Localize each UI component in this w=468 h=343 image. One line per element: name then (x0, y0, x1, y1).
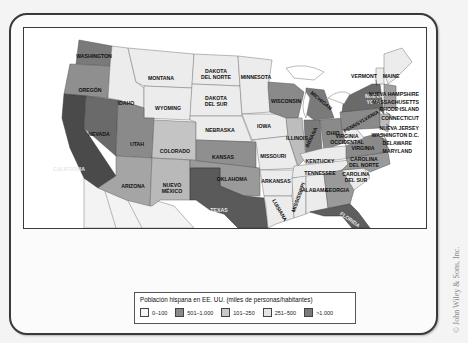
label-tennessee: TENNESSEE (304, 170, 336, 176)
legend-items: 0–100 501–1.000 101–250 251–500 >1.000 (140, 308, 333, 317)
legend-swatch (304, 308, 313, 317)
label-arkansas: ARKANSAS (261, 178, 291, 184)
label-nueva-jersey: NUEVA JERSEY (380, 125, 420, 131)
label-minnesota: MINNESOTA (241, 74, 272, 80)
label-carolina-norte-2: DEL NORTE (349, 162, 379, 168)
legend-item-1000-plus: >1.000 (304, 308, 333, 317)
legend-label: 501–1.000 (187, 310, 213, 316)
legend-item-251-500: 251–500 (263, 308, 296, 317)
legend-item-501-1000: 501–1.000 (175, 308, 213, 317)
label-virginia: VIRGINIA (351, 145, 374, 151)
label-missouri: MISSOURI (260, 153, 286, 159)
label-virginia-occ-2: OCCIDENTAL (330, 139, 364, 145)
label-montana: MONTANA (148, 75, 174, 81)
label-washington-dc: WASHINGTON D.C. (372, 132, 420, 138)
label-georgia: GEORGIA (325, 187, 350, 193)
legend-swatch (140, 308, 149, 317)
legend-swatch (263, 308, 272, 317)
label-connecticut: CONNECTICUT (381, 115, 420, 121)
legend-swatch (221, 308, 230, 317)
legend-label: >1.000 (316, 310, 333, 316)
label-iowa: IOWA (257, 123, 271, 129)
label-dakota-norte-2: DEL NORTE (201, 74, 231, 80)
label-maine: MAINE (383, 73, 400, 79)
legend-label: 0–100 (152, 310, 167, 316)
label-kentucky: KENTUCKY (306, 158, 335, 164)
label-carolina-sur-2: DEL SUR (345, 177, 368, 183)
map-panel: WASHINGTON OREGÓN CALIFORNIA NEVADA IDAH… (23, 27, 427, 229)
label-texas: TEXAS (210, 207, 228, 213)
label-utah: UTAH (130, 141, 144, 147)
label-wyoming: WYOMING (155, 105, 181, 111)
copyright-notice: © John Wiley & Sons, Inc. (452, 247, 461, 333)
label-arizona: ARIZONA (121, 183, 145, 189)
label-oklahoma: OKLAHOMA (217, 176, 248, 182)
label-california: CALIFORNIA (53, 166, 85, 172)
label-oregon: OREGÓN (78, 86, 101, 93)
label-colorado: COLORADO (160, 148, 190, 154)
label-illinois: ILLINOIS (286, 135, 308, 141)
state-colorado (152, 120, 196, 160)
label-nuevo-mexico-2: MÉXICO (162, 187, 182, 194)
label-washington: WASHINGTON (76, 53, 112, 59)
label-idaho: IDAHO (118, 100, 135, 106)
label-nevada: NEVADA (88, 131, 110, 137)
label-nebraska: NEBRASKA (205, 127, 235, 133)
legend-title: Población hispana en EE. UU. (miles de p… (140, 296, 313, 303)
legend: Población hispana en EE. UU. (miles de p… (134, 292, 356, 324)
label-dakota-sur-2: DEL SUR (205, 101, 228, 107)
legend-item-101-250: 101–250 (221, 308, 254, 317)
legend-label: 101–250 (233, 310, 254, 316)
state-wyoming (144, 86, 192, 120)
state-minnesota (238, 56, 272, 114)
label-kansas: KANSAS (212, 154, 234, 160)
state-montana (128, 48, 194, 88)
us-hispanic-population-map: WASHINGTON OREGÓN CALIFORNIA NEVADA IDAH… (24, 28, 426, 228)
label-vermont: VERMONT (351, 73, 378, 79)
legend-label: 251–500 (275, 310, 296, 316)
label-maryland: MARYLAND (383, 148, 413, 154)
label-wisconsin: WISCONSIN (271, 98, 301, 104)
legend-item-0-100: 0–100 (140, 308, 167, 317)
legend-swatch (175, 308, 184, 317)
